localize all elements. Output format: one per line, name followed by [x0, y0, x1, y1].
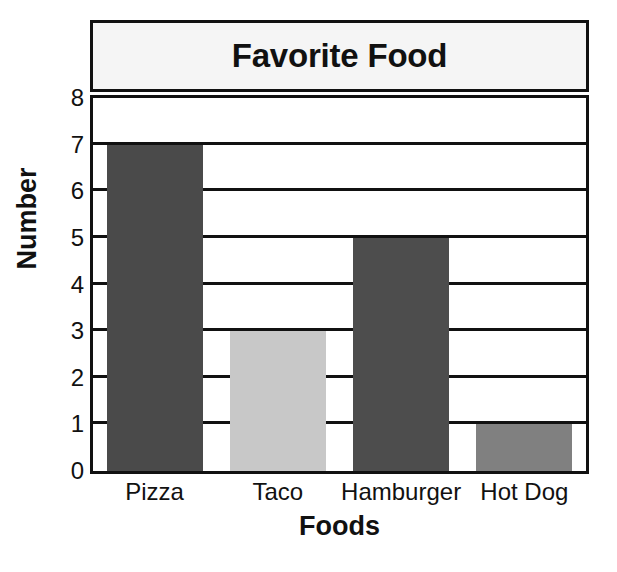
- y-axis-tick-label: 6: [44, 179, 84, 203]
- x-axis-tick-label: Hamburger: [341, 479, 461, 505]
- x-axis-tick-label: Taco: [253, 479, 304, 505]
- x-axis-ticks: PizzaTacoHamburgerHot Dog: [90, 479, 589, 509]
- chart-title: Favorite Food: [232, 37, 448, 75]
- y-axis-tick-label: 3: [44, 319, 84, 343]
- y-axis-ticks: 012345678: [38, 95, 84, 474]
- chart-title-box: Favorite Food: [90, 20, 589, 92]
- y-axis-tick-label: 0: [44, 459, 84, 483]
- y-axis-tick-label: 2: [44, 366, 84, 390]
- bar: [476, 424, 572, 471]
- x-axis-tick-label: Pizza: [125, 479, 184, 505]
- x-axis-tick-label: Hot Dog: [480, 479, 568, 505]
- bar: [107, 145, 203, 471]
- plot-area: [90, 95, 589, 474]
- y-axis-tick-label: 7: [44, 133, 84, 157]
- y-axis-tick-label: 1: [44, 412, 84, 436]
- x-axis-title: Foods: [90, 511, 589, 542]
- bar: [353, 238, 449, 471]
- y-axis-tick-label: 4: [44, 273, 84, 297]
- bar: [230, 331, 326, 471]
- bar-chart-figure: Favorite Food Number 012345678 PizzaTaco…: [0, 0, 617, 572]
- y-axis-tick-label: 5: [44, 226, 84, 250]
- y-axis-tick-label: 8: [44, 86, 84, 110]
- plot-inner: [93, 98, 586, 471]
